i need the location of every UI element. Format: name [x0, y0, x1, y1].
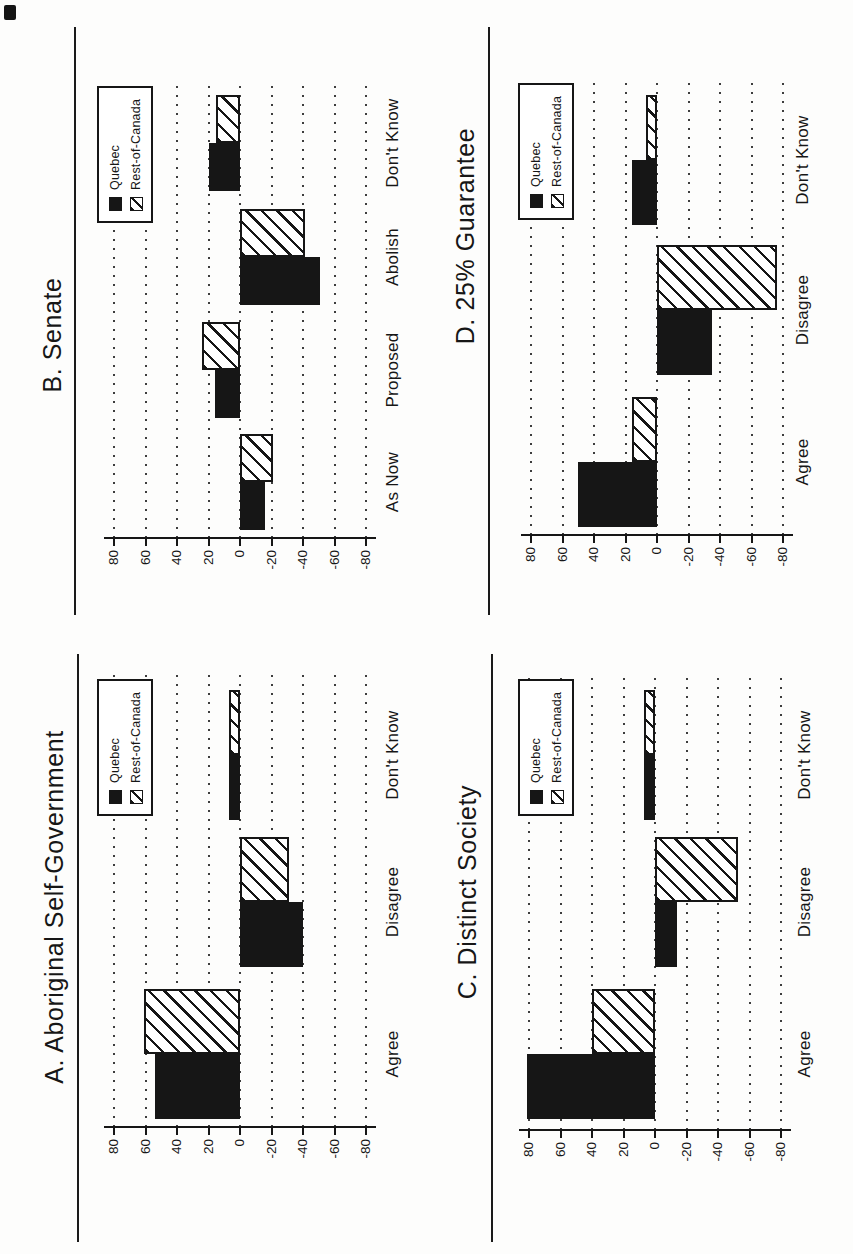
bar-quebec — [240, 482, 265, 530]
legend-entry-quebec: Quebec — [529, 689, 543, 804]
value-axis-line — [104, 1126, 376, 1128]
bar-rest-of-canada — [240, 209, 305, 257]
legend-swatch-rest-of-canada — [130, 790, 143, 804]
axis-tick-20 — [623, 1131, 625, 1138]
bar-rest-of-canada — [202, 322, 240, 370]
axis-tick--20 — [688, 536, 690, 543]
axis-tick-label: 40 — [584, 1142, 600, 1184]
axis-tick--80 — [780, 1131, 782, 1138]
bar-quebec — [240, 902, 303, 967]
legend-label-rest-of-canada: Rest-of-Canada — [550, 692, 564, 783]
axis-tick-0 — [239, 539, 241, 546]
gridline--80 — [365, 86, 367, 538]
axis-tick-label: 0 — [647, 1142, 663, 1184]
panel-c-distinct-society: C. Distinct Society 806040200-20-40-60-8… — [427, 627, 853, 1254]
axis-tick-label: 20 — [616, 1142, 632, 1184]
bar-quebec — [527, 1054, 655, 1119]
legend-entry-quebec: Quebec — [108, 689, 122, 804]
axis-tick-label: 60 — [555, 547, 571, 589]
legend-label-quebec: Quebec — [108, 738, 122, 783]
gridline--40 — [302, 86, 304, 538]
panel-a-aboriginal-self-government: A. Aboriginal Self-Government 806040200-… — [0, 627, 427, 1254]
category-label: Don't Know — [383, 68, 403, 218]
axis-tick--40 — [302, 1128, 304, 1135]
axis-tick-80 — [113, 1128, 115, 1135]
axis-tick--60 — [749, 1131, 751, 1138]
legend-swatch-rest-of-canada — [551, 790, 564, 804]
gridline--40 — [302, 675, 304, 1127]
bar-rest-of-canada — [644, 690, 655, 755]
legend-entry-rest-of-canada: Rest-of-Canada — [129, 96, 143, 211]
gridline--20 — [686, 678, 688, 1130]
bar-rest-of-canada — [229, 690, 240, 755]
legend-swatch-quebec — [109, 790, 122, 804]
axis-tick-label: -20 — [681, 547, 697, 589]
gridline--40 — [717, 678, 719, 1130]
gridline--80 — [365, 675, 367, 1127]
legend-label-quebec: Quebec — [108, 145, 122, 190]
axis-tick-label: 40 — [169, 1139, 185, 1181]
axis-tick-label: 80 — [106, 1139, 122, 1181]
axis-tick-label: 0 — [649, 547, 665, 589]
axis-tick-60 — [145, 539, 147, 546]
bar-quebec — [655, 902, 677, 967]
axis-tick-40 — [591, 1131, 593, 1138]
axis-tick-label: -60 — [327, 550, 343, 592]
plot-area-a: 806040200-20-40-60-80AgreeDisagreeDon't … — [0, 627, 427, 1254]
value-axis-line — [104, 537, 376, 539]
axis-tick--40 — [719, 536, 721, 543]
gridline--60 — [334, 86, 336, 538]
axis-tick-0 — [654, 1131, 656, 1138]
axis-tick-label: -40 — [712, 547, 728, 589]
bar-quebec — [155, 1054, 240, 1119]
legend-label-rest-of-canada: Rest-of-Canada — [129, 99, 143, 190]
legend-label-rest-of-canada: Rest-of-Canada — [550, 96, 564, 187]
axis-tick-label: 20 — [201, 550, 217, 592]
bar-quebec — [657, 310, 712, 375]
axis-tick-label: 60 — [138, 550, 154, 592]
bar-quebec — [209, 143, 241, 191]
axis-tick-label: 80 — [523, 547, 539, 589]
category-label: Disagree — [795, 827, 815, 977]
bar-rest-of-canada — [657, 245, 777, 310]
bar-rest-of-canada — [216, 95, 240, 143]
axis-tick--80 — [782, 536, 784, 543]
legend-swatch-quebec — [530, 194, 543, 208]
category-label: Agree — [383, 979, 403, 1129]
axis-tick-label: -60 — [744, 547, 760, 589]
axis-tick-label: -80 — [358, 550, 374, 592]
bar-rest-of-canada — [144, 989, 240, 1054]
bar-rest-of-canada — [240, 837, 289, 902]
axis-tick-20 — [208, 1128, 210, 1135]
axis-tick-label: -80 — [773, 1142, 789, 1184]
gridline--80 — [780, 678, 782, 1130]
axis-tick-label: 80 — [521, 1142, 537, 1184]
legend-entry-rest-of-canada: Rest-of-Canada — [129, 689, 143, 804]
axis-tick-label: -80 — [358, 1139, 374, 1181]
bar-rest-of-canada — [655, 837, 738, 902]
axis-tick-0 — [239, 1128, 241, 1135]
bar-rest-of-canada — [646, 95, 657, 160]
axis-tick-40 — [176, 1128, 178, 1135]
legend-label-quebec: Quebec — [529, 738, 543, 783]
legend: Quebec Rest-of-Canada — [97, 86, 153, 223]
rotated-scan-canvas: A. Aboriginal Self-Government 806040200-… — [0, 0, 853, 1254]
legend-swatch-quebec — [109, 197, 122, 211]
axis-tick--20 — [271, 1128, 273, 1135]
gridline--60 — [334, 675, 336, 1127]
bar-quebec — [240, 257, 320, 305]
axis-tick-40 — [593, 536, 595, 543]
axis-tick--80 — [365, 1128, 367, 1135]
axis-tick-label: -20 — [264, 550, 280, 592]
gridline-40 — [176, 86, 178, 538]
legend-swatch-rest-of-canada — [130, 197, 143, 211]
legend: Quebec Rest-of-Canada — [518, 83, 574, 220]
legend: Quebec Rest-of-Canada — [518, 679, 574, 816]
axis-tick-label: 60 — [138, 1139, 154, 1181]
axis-tick-60 — [562, 536, 564, 543]
plot-area-b: 806040200-20-40-60-80As NowProposedAboli… — [0, 0, 427, 627]
axis-tick--40 — [717, 1131, 719, 1138]
axis-tick-label: 80 — [106, 550, 122, 592]
value-axis-line — [519, 1129, 791, 1131]
axis-tick-20 — [625, 536, 627, 543]
